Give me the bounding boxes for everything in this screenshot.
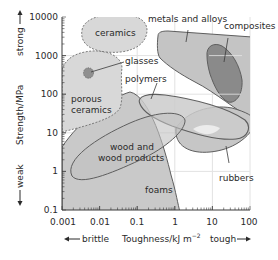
y-tick-10: 10 [47, 128, 59, 138]
x-tick-1: 1 [172, 217, 178, 227]
label-polymers: polymers [125, 74, 167, 84]
y-tick-1000: 1000 [35, 51, 58, 61]
label-wood-1: wood and [110, 142, 154, 152]
x-axis-title: Toughness/kJ m−2 [121, 232, 201, 244]
label-foams: foams [145, 185, 173, 195]
strong-arrow-icon [18, 10, 23, 24]
label-wood-2: wood products [98, 153, 165, 163]
y-direction-weak: weak [15, 164, 25, 188]
x-tick-0.01: 0.01 [90, 217, 110, 227]
label-composites: composites [224, 21, 276, 31]
y-tick-100: 100 [41, 89, 58, 99]
x-tick-0.1: 0.1 [130, 217, 144, 227]
label-porous-1: porous [71, 94, 102, 104]
label-ceramics: ceramics [95, 28, 136, 38]
x-tick-0.001: 0.001 [50, 217, 76, 227]
y-axis-title: Strength/MPa [15, 85, 25, 145]
x-direction-tough: tough [210, 234, 236, 244]
brittle-arrow-icon [64, 237, 80, 242]
x-tick-100: 100 [240, 217, 257, 227]
toughness-strength-chart: 10000 1000 100 10 1 0.1 0.001 0.01 0.1 1… [0, 0, 278, 260]
tough-arrow-icon [237, 237, 251, 242]
x-tick-10: 10 [206, 217, 218, 227]
x-direction-brittle: brittle [82, 234, 109, 244]
label-metals: metals and alloys [148, 14, 228, 24]
y-tick-0.1: 0.1 [44, 205, 58, 215]
y-tick-1: 1 [52, 166, 58, 176]
region-glasses [84, 68, 94, 78]
weak-arrow-icon [18, 190, 23, 206]
label-glasses: glasses [125, 56, 159, 66]
label-porous-2: ceramics [71, 105, 112, 115]
label-rubbers: rubbers [219, 173, 254, 183]
y-direction-strong: strong [15, 27, 25, 56]
y-tick-10000: 10000 [29, 12, 58, 22]
